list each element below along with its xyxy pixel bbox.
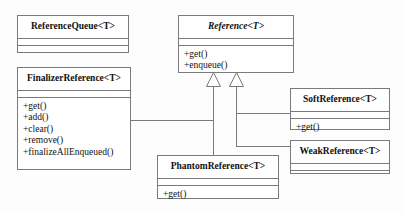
class-operations-phantom-reference: +get() bbox=[158, 185, 278, 199]
class-attributes-reference-queue bbox=[18, 38, 128, 45]
class-box-soft-reference[interactable]: SoftReference<T> +get() bbox=[290, 88, 390, 130]
generalization-arrowhead-left bbox=[207, 73, 221, 87]
class-name-reference: Reference<T> bbox=[179, 16, 293, 38]
class-box-phantom-reference[interactable]: PhantomReference<T> +get() bbox=[157, 155, 279, 199]
class-operations-reference-queue bbox=[18, 45, 128, 53]
class-box-weak-reference[interactable]: WeakReference<T> bbox=[290, 140, 390, 174]
class-name-soft-reference: SoftReference<T> bbox=[291, 89, 389, 111]
class-name-finalizer-reference: FinalizerReference<T> bbox=[18, 68, 130, 90]
operation-item: +get() bbox=[163, 189, 278, 201]
class-operations-weak-reference bbox=[291, 170, 389, 177]
operation-item: +remove() bbox=[23, 135, 130, 147]
operation-item: +add() bbox=[23, 112, 130, 124]
class-attributes-phantom-reference bbox=[158, 178, 278, 185]
class-name-weak-reference: WeakReference<T> bbox=[291, 141, 389, 163]
generalization-arrowhead-right bbox=[230, 73, 244, 87]
uml-class-diagram-canvas: ReferenceQueue<T> Reference<T> +get() +e… bbox=[0, 0, 405, 214]
class-attributes-finalizer-reference bbox=[18, 90, 130, 97]
class-operations-soft-reference: +get() bbox=[291, 118, 389, 130]
operation-item: +enqueue() bbox=[184, 60, 293, 72]
operation-item: +finalizeAllEnqueued() bbox=[23, 147, 130, 159]
class-box-reference-queue[interactable]: ReferenceQueue<T> bbox=[17, 15, 129, 53]
class-name-reference-queue: ReferenceQueue<T> bbox=[18, 16, 128, 38]
operation-item: +get() bbox=[23, 101, 130, 113]
class-attributes-weak-reference bbox=[291, 163, 389, 170]
operation-item: +get() bbox=[184, 49, 293, 61]
operation-item: +clear() bbox=[23, 124, 130, 136]
class-name-phantom-reference: PhantomReference<T> bbox=[158, 156, 278, 178]
class-operations-reference: +get() +enqueue() bbox=[179, 45, 293, 73]
operation-item: +get() bbox=[296, 122, 389, 134]
class-attributes-reference bbox=[179, 38, 293, 45]
class-attributes-soft-reference bbox=[291, 111, 389, 118]
class-operations-finalizer-reference: +get() +add() +clear() +remove() +finali… bbox=[18, 97, 130, 170]
class-box-finalizer-reference[interactable]: FinalizerReference<T> +get() +add() +cle… bbox=[17, 67, 131, 170]
class-box-reference[interactable]: Reference<T> +get() +enqueue() bbox=[178, 15, 294, 73]
